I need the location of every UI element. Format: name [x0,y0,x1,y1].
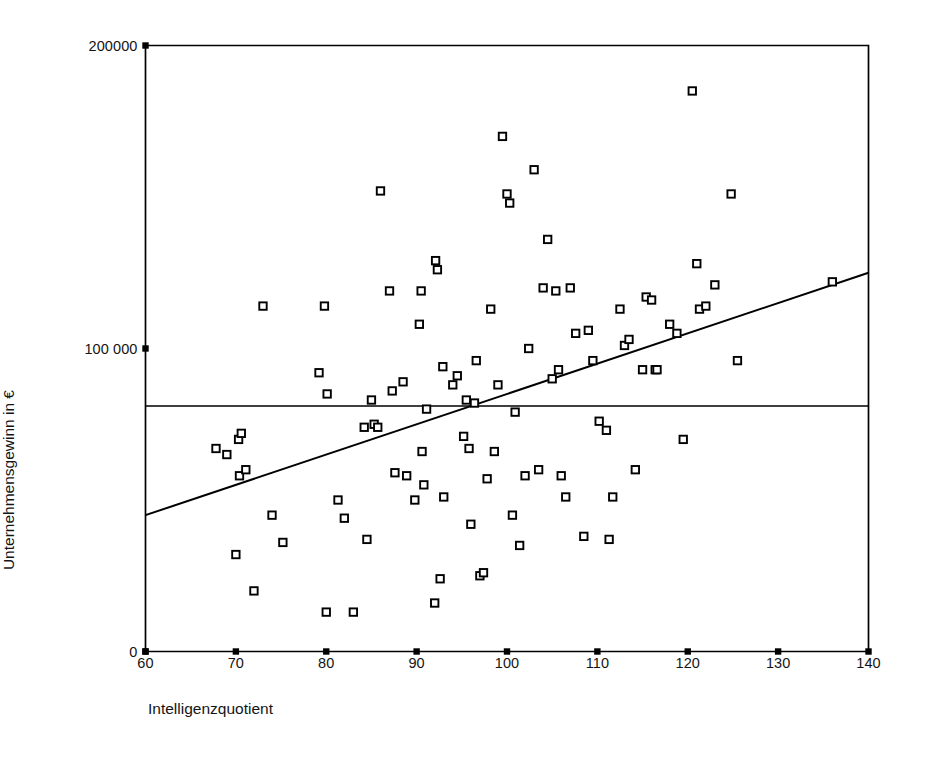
data-point [368,396,375,403]
data-point [580,533,587,540]
data-point [212,445,219,452]
data-point [449,381,456,388]
data-point [268,511,275,518]
data-point [555,366,562,373]
data-point [377,187,384,194]
x-axis-tick [504,648,510,654]
data-point [361,424,368,431]
x-axis-tick-label: 60 [137,655,153,671]
data-point [420,481,427,488]
data-point [471,399,478,406]
data-point [727,190,734,197]
data-point [509,511,516,518]
data-point [544,236,551,243]
data-point [242,466,249,473]
y-axis-tick [142,648,148,654]
x-axis-tick-label: 130 [766,655,791,671]
data-point [653,366,660,373]
y-axis-title-text: Unternehmensgewinn in € [0,390,18,618]
x-axis-tick-label: 110 [586,655,609,671]
data-point [548,375,555,382]
x-axis-title: Intelligenzquotient [148,700,273,718]
y-axis-tick-label: 100 000 [0,341,138,357]
data-point [434,266,441,273]
data-point [625,336,632,343]
data-point [506,199,513,206]
data-point [391,469,398,476]
y-axis-tick [142,345,148,351]
data-point [363,536,370,543]
data-point [480,569,487,576]
data-point [605,536,612,543]
data-point [279,539,286,546]
scatter-plot-figure: 60708090100110120130140 0100 000200000 I… [0,0,928,770]
data-point [516,542,523,549]
data-point [521,472,528,479]
x-axis-tick-label: 140 [856,655,881,671]
data-point [552,287,559,294]
data-point [639,366,646,373]
data-point [321,302,328,309]
data-point [423,405,430,412]
data-point [595,418,602,425]
data-point [511,408,518,415]
data-point [473,357,480,364]
data-point [418,448,425,455]
x-axis-tick-label: 90 [408,655,424,671]
data-point [334,496,341,503]
data-point [431,599,438,606]
data-point [323,608,330,615]
data-point [463,396,470,403]
data-point [603,427,610,434]
data-point [585,327,592,334]
y-axis-title: Unternehmensgewinn in € [0,390,18,618]
data-point [680,436,687,443]
data-point [411,496,418,503]
data-point [666,321,673,328]
data-point [315,369,322,376]
x-axis-tick-label: 70 [228,655,244,671]
data-point [616,305,623,312]
data-point [417,287,424,294]
data-point [439,363,446,370]
data-point [558,472,565,479]
data-point [465,445,472,452]
data-point [632,466,639,473]
data-point [250,587,257,594]
data-point [374,424,381,431]
x-axis-tick [865,648,871,654]
data-point [562,493,569,500]
data-point [711,281,718,288]
data-point [491,448,498,455]
data-point [259,302,266,309]
data-point [440,493,447,500]
x-axis-tick [233,648,239,654]
data-point [399,378,406,385]
data-point [689,87,696,94]
data-point [567,284,574,291]
x-axis-tick [413,648,419,654]
data-point [460,433,467,440]
data-point [829,278,836,285]
data-point [341,514,348,521]
data-point [386,287,393,294]
data-point [416,321,423,328]
data-point [525,345,532,352]
data-point [648,296,655,303]
data-point [673,330,680,337]
data-point [238,430,245,437]
data-point [389,387,396,394]
x-axis-tick-label: 80 [318,655,334,671]
data-point [734,357,741,364]
data-point [499,133,506,140]
y-axis-tick-label: 200000 [0,38,138,54]
y-axis-tick-label: 0 [0,644,138,660]
data-point [454,372,461,379]
y-axis-tick [142,42,148,48]
x-axis-tick-label: 100 [495,655,520,671]
data-points-group [212,87,836,616]
x-axis-tick [323,648,329,654]
data-point [530,166,537,173]
data-point [503,190,510,197]
data-point [693,260,700,267]
